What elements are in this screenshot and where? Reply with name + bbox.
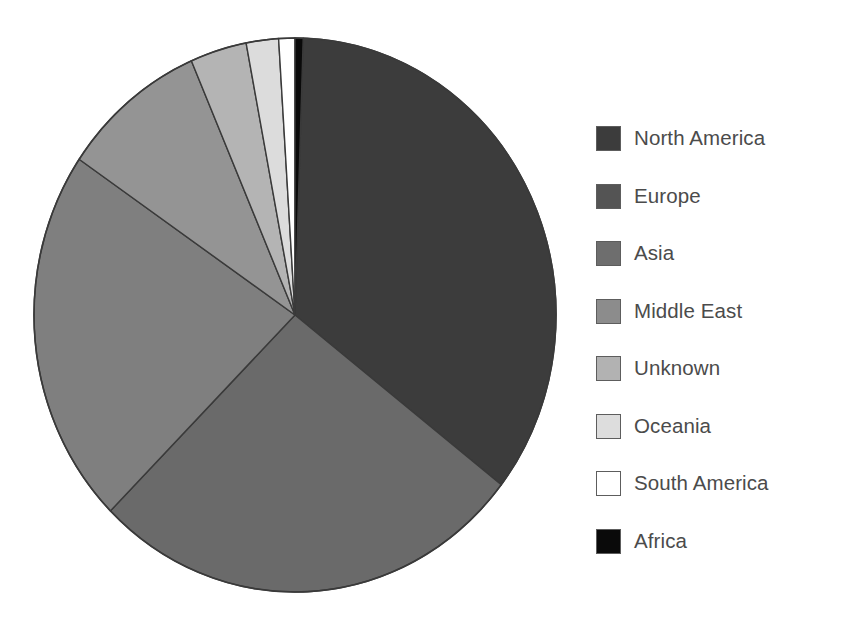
legend-swatch-icon [596, 241, 621, 266]
legend-item-middle-east[interactable]: Middle East [596, 283, 845, 341]
legend-swatch-icon [596, 126, 621, 151]
legend-swatch-icon [596, 471, 621, 496]
legend-item-label: Unknown [634, 357, 720, 380]
legend-item-label: North America [634, 127, 765, 150]
legend-swatch-icon [596, 184, 621, 209]
legend-item-unknown[interactable]: Unknown [596, 340, 845, 398]
legend-item-asia[interactable]: Asia [596, 225, 845, 283]
legend-swatch-icon [596, 414, 621, 439]
chart-legend: North AmericaEuropeAsiaMiddle EastUnknow… [596, 110, 845, 570]
legend-item-label: Africa [634, 530, 687, 553]
legend-item-africa[interactable]: Africa [596, 513, 845, 571]
legend-swatch-icon [596, 356, 621, 381]
legend-item-south-america[interactable]: South America [596, 455, 845, 513]
pie-graphic [0, 0, 600, 618]
legend-swatch-icon [596, 299, 621, 324]
legend-swatch-icon [596, 529, 621, 554]
legend-item-label: South America [634, 472, 769, 495]
legend-item-oceania[interactable]: Oceania [596, 398, 845, 456]
legend-item-label: Asia [634, 242, 674, 265]
legend-item-label: Oceania [634, 415, 711, 438]
pie-chart: North AmericaEuropeAsiaMiddle EastUnknow… [0, 0, 845, 618]
legend-item-label: Europe [634, 185, 701, 208]
pie-slice-group [34, 38, 556, 592]
legend-item-north-america[interactable]: North America [596, 110, 845, 168]
legend-item-label: Middle East [634, 300, 742, 323]
legend-item-europe[interactable]: Europe [596, 168, 845, 226]
